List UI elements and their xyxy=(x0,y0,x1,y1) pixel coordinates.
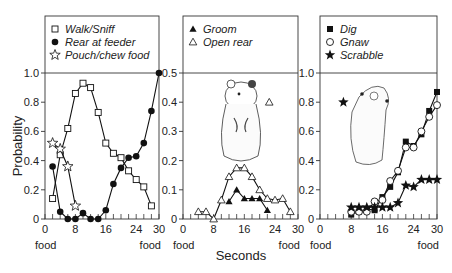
data-point xyxy=(141,184,147,190)
x-axis-title: Seconds xyxy=(216,248,267,263)
series-walk-sniff xyxy=(50,80,155,209)
y-tick-label: 0.2 xyxy=(299,184,314,196)
legend-label: Dig xyxy=(340,23,357,35)
data-point xyxy=(110,150,116,156)
data-point xyxy=(426,113,433,120)
data-point xyxy=(279,195,287,202)
data-point xyxy=(125,154,132,161)
data-point xyxy=(402,144,409,151)
data-point xyxy=(434,89,440,95)
x-tick-label: 16 xyxy=(376,223,388,235)
series-open-rear xyxy=(195,164,295,222)
data-point xyxy=(95,109,101,115)
y-tick-label: 0.4 xyxy=(162,96,177,108)
series-line xyxy=(198,168,290,219)
hamster-ear xyxy=(227,80,235,88)
x-tick-label: 24 xyxy=(407,223,419,235)
x-tick-label: 8 xyxy=(211,223,217,235)
y-tick-label: 0.6 xyxy=(299,125,314,137)
data-point xyxy=(103,207,110,214)
hamster-paw xyxy=(360,92,364,96)
data-point xyxy=(233,186,240,192)
legend-label: Groom xyxy=(203,23,237,35)
x-tick-label: 0 xyxy=(317,223,323,235)
y-tick-label: 1.0 xyxy=(299,67,314,79)
legend-label: Open rear xyxy=(203,36,254,48)
legend-marker xyxy=(327,39,334,46)
data-point xyxy=(95,216,102,223)
y-tick-label: 0 xyxy=(308,213,314,225)
data-point xyxy=(424,174,434,184)
hamster-paw xyxy=(385,99,389,103)
chart-figure: 00.20.40.60.81.008162430foodfoodWalk/Sni… xyxy=(0,0,452,273)
x-tick-label: 8 xyxy=(348,223,354,235)
y-tick-label: 0.2 xyxy=(162,155,177,167)
x-start-label: food xyxy=(173,239,194,251)
data-point xyxy=(63,161,73,171)
data-point xyxy=(88,85,94,91)
data-point xyxy=(287,208,295,215)
y-tick-label: 0.2 xyxy=(24,184,39,196)
data-point xyxy=(87,216,94,223)
hamster-illustration xyxy=(351,86,389,164)
x-tick-label: 24 xyxy=(130,223,142,235)
y-tick-label: 0.5 xyxy=(162,67,177,79)
hamster-illustration xyxy=(221,80,260,161)
hamster-body xyxy=(221,104,260,161)
y-axis-title: Probability xyxy=(10,115,25,176)
hamster-body xyxy=(351,86,389,164)
data-point xyxy=(418,128,425,135)
x-end-label: food xyxy=(279,239,300,251)
series-line xyxy=(351,180,437,208)
data-point xyxy=(141,140,148,147)
data-point xyxy=(49,163,56,170)
y-tick-label: 0 xyxy=(171,213,177,225)
data-point xyxy=(80,210,87,217)
legend-label: Rear at feeder xyxy=(65,36,137,48)
data-point xyxy=(148,108,155,115)
legend-marker xyxy=(189,38,197,45)
legend-label: Walk/Sniff xyxy=(65,23,115,35)
y-tick-label: 0.4 xyxy=(299,155,314,167)
data-point xyxy=(65,216,72,223)
x-start-label: food xyxy=(35,239,56,251)
x-end-label: food xyxy=(140,239,161,251)
legend-marker xyxy=(50,50,60,60)
x-tick-label: 0 xyxy=(42,223,48,235)
data-point xyxy=(118,165,125,172)
y-tick-label: 0.4 xyxy=(24,155,39,167)
legend-label: Pouch/chew food xyxy=(65,49,150,61)
data-point xyxy=(434,102,441,109)
data-point xyxy=(50,196,56,202)
legend-label: Scrabble xyxy=(340,49,383,61)
hamster-ear xyxy=(248,80,256,88)
x-tick-label: 24 xyxy=(269,223,281,235)
hamster-eye xyxy=(238,93,241,96)
data-point xyxy=(57,208,64,215)
x-tick-label: 0 xyxy=(180,223,186,235)
x-tick-label: 16 xyxy=(238,223,250,235)
data-point xyxy=(256,186,264,193)
data-point xyxy=(110,181,117,188)
data-point xyxy=(401,180,411,190)
x-tick-label: 8 xyxy=(72,223,78,235)
x-tick-label: 30 xyxy=(292,223,304,235)
data-point xyxy=(225,198,232,204)
data-point xyxy=(103,140,109,146)
legend-marker xyxy=(327,26,333,32)
data-point xyxy=(126,168,132,174)
chart-panel-1: 00.20.40.60.81.008162430foodfoodWalk/Sni… xyxy=(24,16,165,251)
data-point xyxy=(410,144,417,151)
x-tick-label: 30 xyxy=(431,223,443,235)
data-point xyxy=(385,202,395,212)
data-point xyxy=(387,178,394,185)
legend-marker xyxy=(52,39,59,46)
x-tick-label: 16 xyxy=(100,223,112,235)
legend-marker xyxy=(189,25,196,31)
legend-label: Gnaw xyxy=(340,36,370,48)
series-line xyxy=(53,83,152,206)
data-point xyxy=(264,207,271,213)
y-tick-label: 0.1 xyxy=(162,184,177,196)
series-groom xyxy=(225,186,271,213)
data-point xyxy=(70,200,80,210)
